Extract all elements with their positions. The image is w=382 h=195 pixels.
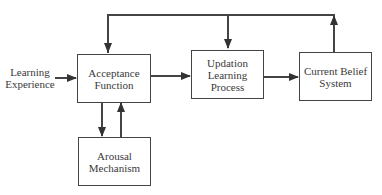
input-label-line2: Experience bbox=[5, 78, 54, 90]
feedback-line bbox=[108, 15, 334, 53]
node-acceptance-function: Acceptance Function bbox=[77, 54, 151, 103]
updation-line2: Learning bbox=[207, 69, 248, 81]
arousal-line2: Mechanism bbox=[89, 162, 140, 174]
updation-line3: Process bbox=[207, 81, 248, 93]
input-label-line1: Learning bbox=[10, 66, 50, 78]
acceptance-line1: Acceptance bbox=[88, 67, 139, 79]
input-label-learning-experience: Learning Experience bbox=[2, 66, 58, 90]
node-updation-learning-process: Updation Learning Process bbox=[191, 50, 264, 99]
belief-line1: Current Belief bbox=[304, 65, 367, 77]
acceptance-line2: Function bbox=[88, 79, 139, 91]
updation-line1: Updation bbox=[207, 57, 248, 69]
arousal-line1: Arousal bbox=[89, 150, 140, 162]
node-current-belief-system: Current Belief System bbox=[299, 52, 372, 101]
node-arousal-mechanism: Arousal Mechanism bbox=[78, 137, 151, 186]
belief-line2: System bbox=[304, 77, 367, 89]
